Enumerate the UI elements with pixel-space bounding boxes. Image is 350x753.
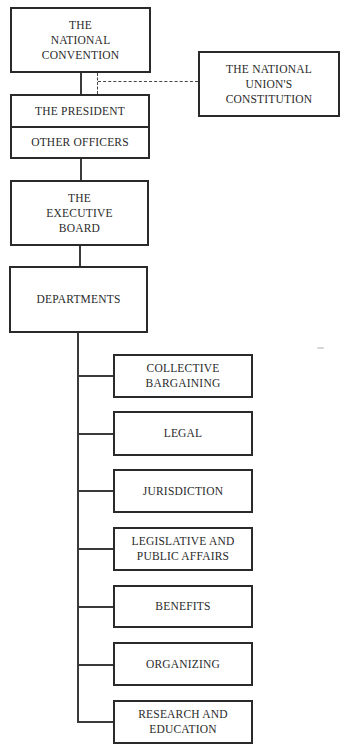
departments-label: DEPARTMENTS (36, 292, 120, 307)
executive-board-box: THE EXECUTIVE BOARD (10, 180, 149, 246)
president-cell: THE PRESIDENT (12, 96, 148, 126)
other-officers-label: OTHER OFFICERS (31, 136, 129, 148)
board-departments-connector (79, 246, 81, 267)
department-box-legal: LEGAL (113, 411, 253, 456)
officers-board-connector (80, 159, 82, 180)
union-constitution-box: THE NATIONAL UNION'S CONSTITUTION (198, 51, 340, 117)
other-officers-cell: OTHER OFFICERS (12, 126, 148, 158)
branch-organizing (77, 664, 113, 666)
constitution-dashed-vertical-connector (97, 73, 98, 94)
president-officers-box: THE PRESIDENT OTHER OFFICERS (10, 94, 150, 159)
department-box-research-education: RESEARCH AND EDUCATION (113, 700, 253, 744)
national-convention-label: THE NATIONAL CONVENTION (42, 18, 119, 63)
union-constitution-label: THE NATIONAL UNION'S CONSTITUTION (226, 62, 313, 107)
branch-legislative (77, 548, 113, 550)
branch-collective-bargaining (77, 375, 113, 377)
branch-jurisdiction (77, 490, 113, 492)
department-box-benefits: BENEFITS (113, 585, 253, 628)
branch-legal (77, 433, 113, 435)
department-box-collective-bargaining: COLLECTIVE BARGAINING (113, 354, 253, 398)
department-label: LEGAL (164, 426, 203, 441)
national-convention-box: THE NATIONAL CONVENTION (10, 7, 151, 73)
branch-benefits (77, 606, 113, 608)
department-box-jurisdiction: JURISDICTION (113, 469, 253, 513)
department-box-legislative-public-affairs: LEGISLATIVE AND PUBLIC AFFAIRS (113, 527, 253, 571)
department-label: ORGANIZING (146, 657, 220, 672)
departments-box: DEPARTMENTS (9, 266, 148, 333)
department-label: BENEFITS (155, 599, 210, 614)
department-label: COLLECTIVE BARGAINING (146, 361, 221, 391)
department-label: RESEARCH AND EDUCATION (138, 707, 228, 737)
branch-research (77, 721, 113, 723)
convention-president-connector (80, 73, 82, 94)
scan-speck (317, 347, 324, 349)
executive-board-label: THE EXECUTIVE BOARD (46, 191, 112, 236)
president-label: THE PRESIDENT (35, 105, 125, 117)
department-label: JURISDICTION (143, 484, 223, 499)
department-box-organizing: ORGANIZING (113, 642, 253, 686)
constitution-dashed-horizontal-connector (98, 81, 198, 82)
department-label: LEGISLATIVE AND PUBLIC AFFAIRS (132, 534, 235, 564)
